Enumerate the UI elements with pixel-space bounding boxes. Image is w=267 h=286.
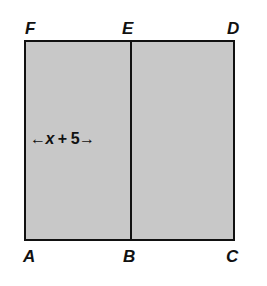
variable-x: x <box>46 130 54 147</box>
rectangle-afdc: ←x + 5→ <box>24 40 235 241</box>
segment-be <box>130 42 132 239</box>
vertex-label-d: D <box>227 20 239 37</box>
vertex-label-b: B <box>123 248 135 265</box>
vertex-label-f: F <box>25 20 35 37</box>
left-arrow-icon: ← <box>30 130 46 147</box>
vertex-label-a: A <box>23 248 35 265</box>
right-arrow-icon: → <box>79 130 95 147</box>
dimension-label-ab: ←x + 5→ <box>30 130 95 148</box>
plus-operator: + <box>54 130 71 147</box>
constant-five: 5 <box>71 130 79 147</box>
vertex-label-e: E <box>122 20 133 37</box>
vertex-label-c: C <box>226 248 238 265</box>
